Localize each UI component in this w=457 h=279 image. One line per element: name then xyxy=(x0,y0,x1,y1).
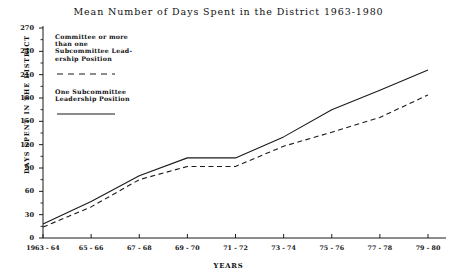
legend-dashed-line-swatch xyxy=(57,71,117,77)
legend-entry-subcommittee: One Subcommittee Leadership Position xyxy=(55,88,205,121)
legend-entry-committee: Committee or more than one Subcommittee … xyxy=(55,33,205,81)
chart-legend: Committee or more than one Subcommittee … xyxy=(55,33,205,123)
legend-line: One Subcommittee xyxy=(55,88,205,95)
legend-line: ership Position xyxy=(55,55,205,62)
chart-container: Mean Number of Days Spent in the Distric… xyxy=(0,0,457,279)
legend-line: Committee or more xyxy=(55,33,205,40)
legend-entry-subcommittee-text: One Subcommittee Leadership Position xyxy=(55,88,205,102)
legend-entry-committee-text: Committee or more than one Subcommittee … xyxy=(55,33,205,62)
legend-line: than one xyxy=(55,40,205,47)
legend-line: Subcommittee Lead- xyxy=(55,47,205,54)
legend-line: Leadership Position xyxy=(55,95,205,102)
legend-solid-line-swatch xyxy=(57,111,117,117)
